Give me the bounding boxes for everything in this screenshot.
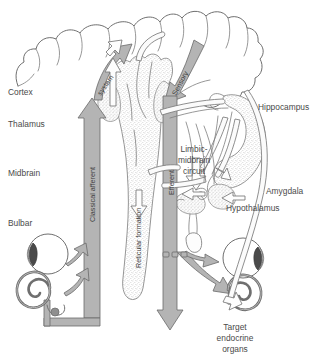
neuroanatomy-diagram: Cortex Thalamus Midbrain Bulbar Hippocam… [0,0,317,355]
label-amygdala: Amygdala [266,186,304,196]
label-thalamus: Thalamus [8,119,45,129]
limbic-line-2: midbrain [178,155,210,165]
label-reticular-formation: Reticular formation [134,208,143,268]
target-line-1: Target [223,322,247,332]
hypothalamus-body [175,192,205,252]
label-efferent: Efferent [167,170,176,195]
efferent-arrow [157,96,183,330]
label-cortex: Cortex [8,87,33,97]
limbic-line-1: Limbic- [181,144,208,154]
limbic-line-3: circuit [183,166,206,176]
label-hypothalamus: Hypothalamus [226,203,280,213]
target-line-3: organs [222,344,248,354]
cochlea-left [17,272,65,316]
label-limbic-midbrain-circuit: Limbic- midbrain circuit [178,144,210,176]
target-line-2: endocrine [217,333,254,343]
label-classical-afferent: Classical afferent [88,167,97,222]
label-midbrain: Midbrain [8,168,40,178]
label-target-endocrine-organs: Target endocrine organs [217,322,254,354]
label-bulbar: Bulbar [8,218,32,228]
label-hippocampus: Hippocampus [258,102,309,112]
eye-left [27,234,68,274]
